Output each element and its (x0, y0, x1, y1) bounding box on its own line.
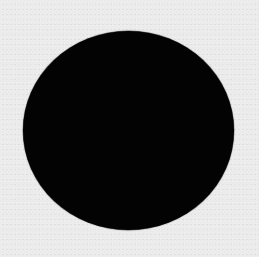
background (0, 0, 259, 257)
black-circle (23, 31, 234, 230)
